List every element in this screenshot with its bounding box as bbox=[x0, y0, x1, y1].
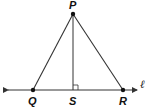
label-q: Q bbox=[28, 95, 37, 107]
label-line-l: ℓ bbox=[140, 78, 145, 90]
label-s: S bbox=[69, 95, 77, 107]
right-angle-marker bbox=[73, 85, 78, 90]
geometry-diagram: P Q S R ℓ bbox=[0, 0, 146, 110]
point-p bbox=[71, 12, 75, 16]
point-q bbox=[31, 88, 35, 92]
point-r bbox=[121, 88, 125, 92]
segment-pr bbox=[73, 14, 123, 90]
label-r: R bbox=[119, 95, 127, 107]
label-p: P bbox=[69, 0, 77, 11]
segment-pq bbox=[33, 14, 73, 90]
